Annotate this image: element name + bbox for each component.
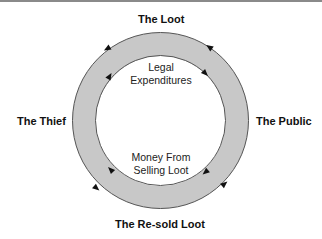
- node-the-resold-loot: The Re-sold Loot: [115, 218, 205, 230]
- ring-band: [72, 33, 248, 209]
- node-the-thief: The Thief: [17, 115, 66, 127]
- label-line: Expenditures: [111, 74, 211, 87]
- node-the-loot: The Loot: [138, 13, 184, 25]
- label-line: Selling Loot: [111, 164, 211, 177]
- label-line: Legal: [111, 61, 211, 74]
- label-line: Money From: [111, 151, 211, 164]
- label-legal-expenditures: Legal Expenditures: [111, 61, 211, 87]
- node-the-public: The Public: [256, 115, 312, 127]
- label-money-from-selling-loot: Money From Selling Loot: [111, 151, 211, 177]
- arrow-icon: [92, 184, 101, 193]
